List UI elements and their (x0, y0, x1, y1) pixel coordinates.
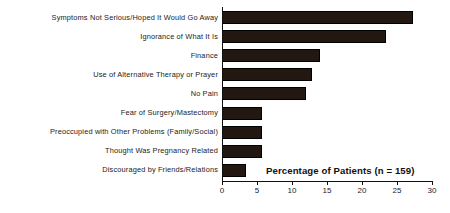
tick-mark (292, 181, 293, 185)
bar-row: No Pain (0, 84, 450, 103)
bar-row: Use of Alternative Therapy or Prayer (0, 65, 450, 84)
tick-label: 30 (428, 186, 437, 195)
bar-track (222, 65, 450, 84)
y-axis-line (222, 7, 223, 182)
bar-category-label: Preoccupied with Other Problems (Family/… (50, 129, 218, 136)
plot-area: Symptoms Not Serious/Hoped It Would Go A… (0, 0, 450, 213)
bar-track (222, 27, 450, 46)
bar-track (222, 104, 450, 123)
bar-row: Ignorance of What It Is (0, 27, 450, 46)
bar (222, 87, 306, 100)
tick-mark (222, 181, 223, 185)
bar-category-label: Fear of Surgery/Mastectomy (121, 109, 218, 116)
tick-label: 20 (358, 186, 367, 195)
bar (222, 11, 413, 24)
bar-row: Fear of Surgery/Mastectomy (0, 104, 450, 123)
bar-rows: Symptoms Not Serious/Hoped It Would Go A… (0, 8, 450, 180)
bar-category-label: Ignorance of What It Is (140, 33, 218, 40)
bar-row: Preoccupied with Other Problems (Family/… (0, 123, 450, 142)
chart-title: Percentage of Patients (n = 159) (266, 165, 415, 176)
bar-track (222, 8, 450, 27)
x-axis-ticks: 051015202530 (0, 181, 450, 207)
bar-track (222, 123, 450, 142)
tick-label: 25 (393, 186, 402, 195)
bar (222, 145, 262, 158)
bar-track (222, 142, 450, 161)
bar-category-label: Thought Was Pregnancy Related (105, 148, 218, 155)
bar-track (222, 84, 450, 103)
tick-mark (397, 181, 398, 185)
tick-label: 15 (323, 186, 332, 195)
bar (222, 49, 320, 62)
tick-mark (327, 181, 328, 185)
bar-category-label: Use of Alternative Therapy or Prayer (93, 71, 218, 78)
bar (222, 68, 312, 81)
bar-track (222, 46, 450, 65)
tick-mark (362, 181, 363, 185)
tick-label: 0 (220, 186, 224, 195)
bar-row: Finance (0, 46, 450, 65)
tick-mark (432, 181, 433, 185)
bar-category-label: Finance (191, 52, 218, 59)
tick-label: 10 (288, 186, 297, 195)
bar-row: Thought Was Pregnancy Related (0, 142, 450, 161)
bar (222, 164, 246, 177)
tick-mark (257, 181, 258, 185)
horizontal-bar-chart: Symptoms Not Serious/Hoped It Would Go A… (0, 0, 450, 213)
tick-label: 5 (255, 186, 259, 195)
bar-category-label: Symptoms Not Serious/Hoped It Would Go A… (52, 14, 218, 21)
bar-row: Symptoms Not Serious/Hoped It Would Go A… (0, 8, 450, 27)
bar (222, 107, 262, 120)
bar-category-label: No Pain (191, 90, 218, 97)
bar (222, 30, 386, 43)
bar (222, 126, 262, 139)
bar-category-label: Discouraged by Friends/Relations (102, 167, 218, 174)
